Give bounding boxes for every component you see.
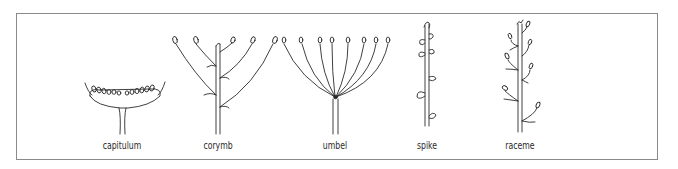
umbel-label: umbel bbox=[323, 139, 347, 151]
spike-label: spike bbox=[417, 139, 437, 151]
raceme-label: raceme bbox=[505, 139, 534, 151]
corymb-illustration bbox=[172, 36, 278, 134]
capitulum-illustration bbox=[85, 82, 165, 134]
umbel-illustration bbox=[282, 37, 390, 134]
spike-illustration bbox=[417, 22, 436, 126]
capitulum-label: capitulum bbox=[103, 139, 142, 151]
corymb-label: corymb bbox=[203, 139, 232, 151]
raceme-illustration bbox=[501, 20, 540, 132]
